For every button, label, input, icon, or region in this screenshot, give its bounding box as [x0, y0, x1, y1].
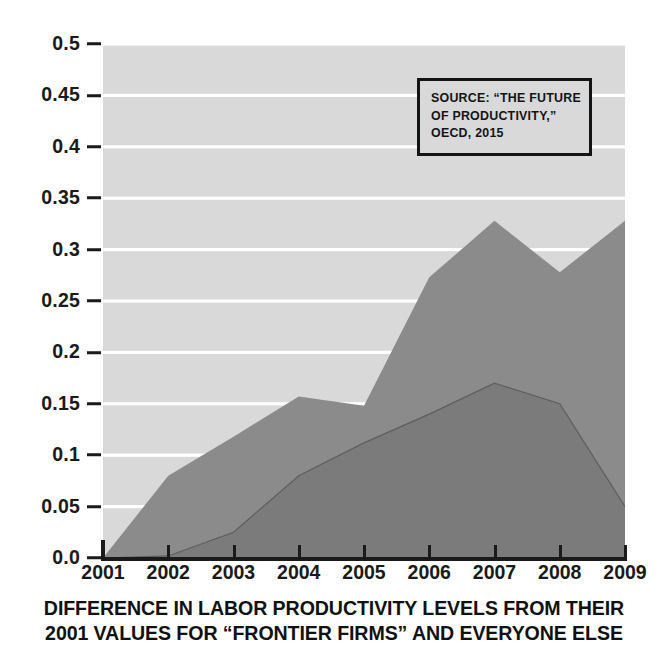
y-tick-label: 0.25 [41, 291, 80, 311]
y-tick-label: 0.4 [52, 137, 80, 157]
y-tick-mark [87, 505, 101, 508]
y-tick-0.45: 0.45 [41, 86, 101, 106]
y-tick-0.35: 0.35 [41, 188, 101, 208]
x-tick-mark-2006 [428, 545, 431, 557]
x-tick-label-2003: 2003 [212, 563, 255, 583]
y-tick-mark [87, 351, 101, 354]
x-tick-mark-2003 [233, 545, 236, 557]
x-tick-label-2004: 2004 [277, 563, 320, 583]
x-tick-label-2009: 2009 [603, 563, 646, 583]
y-tick-mark [87, 557, 101, 560]
y-tick-mark [87, 402, 101, 405]
y-tick-0.05: 0.05 [41, 497, 101, 517]
x-tick-mark-2009 [624, 545, 627, 557]
y-tick-mark [87, 300, 101, 303]
y-tick-0.3: 0.3 [52, 240, 101, 260]
y-tick-mark [87, 43, 101, 46]
y-tick-label: 0.2 [52, 343, 80, 363]
y-tick-0.5: 0.5 [52, 34, 101, 54]
x-tick-mark-2004 [298, 545, 301, 557]
y-tick-label: 0.3 [52, 240, 80, 260]
x-tick-label-2001: 2001 [81, 563, 124, 583]
y-tick-0.1: 0.1 [52, 445, 101, 465]
source-note-box: SOURCE: “THE FUTURE OF PRODUCTIVITY,” OE… [417, 78, 592, 156]
gridline-0.35 [103, 197, 625, 200]
chart-caption: DIFFERENCE IN LABOR PRODUCTIVITY LEVELS … [0, 596, 668, 646]
x-tick-label-2005: 2005 [342, 563, 385, 583]
y-tick-mark [87, 248, 101, 251]
y-tick-0.25: 0.25 [41, 291, 101, 311]
y-tick-label: 0.45 [41, 86, 80, 106]
source-note-line-3: OECD, 2015 [431, 125, 580, 143]
gridline-0.5 [103, 44, 625, 46]
source-note-line-1: SOURCE: “THE FUTURE [431, 90, 580, 108]
y-tick-label: 0.15 [41, 394, 80, 414]
y-tick-label: 0.05 [41, 497, 80, 517]
x-tick-mark-2007 [494, 545, 497, 557]
chart-figure: 0.00.050.10.150.20.250.30.350.40.450.5 2… [0, 0, 668, 661]
y-tick-label: 0.1 [52, 445, 80, 465]
x-tick-label-2007: 2007 [473, 563, 516, 583]
x-tick-mark-2008 [559, 545, 562, 557]
x-tick-mark-2002 [167, 545, 170, 557]
y-tick-0.4: 0.4 [52, 137, 101, 157]
y-tick-label: 0.5 [52, 34, 80, 54]
x-tick-mark-2005 [363, 545, 366, 557]
caption-line-1: DIFFERENCE IN LABOR PRODUCTIVITY LEVELS … [0, 596, 668, 621]
y-axis-corner-tick [101, 540, 105, 560]
x-axis: 200120022003200420052006200720082009 [0, 561, 668, 593]
y-tick-0.2: 0.2 [52, 343, 101, 363]
y-tick-mark [87, 94, 101, 97]
gridline-0.3 [103, 248, 625, 251]
caption-line-2: 2001 VALUES FOR “FRONTIER FIRMS” AND EVE… [0, 621, 668, 646]
y-tick-mark [87, 145, 101, 148]
y-tick-mark [87, 454, 101, 457]
y-tick-0.15: 0.15 [41, 394, 101, 414]
y-tick-label: 0.35 [41, 188, 80, 208]
x-tick-label-2002: 2002 [147, 563, 190, 583]
x-tick-label-2008: 2008 [538, 563, 581, 583]
y-tick-mark [87, 197, 101, 200]
source-note-line-2: OF PRODUCTIVITY,” [431, 108, 580, 126]
x-tick-label-2006: 2006 [408, 563, 451, 583]
